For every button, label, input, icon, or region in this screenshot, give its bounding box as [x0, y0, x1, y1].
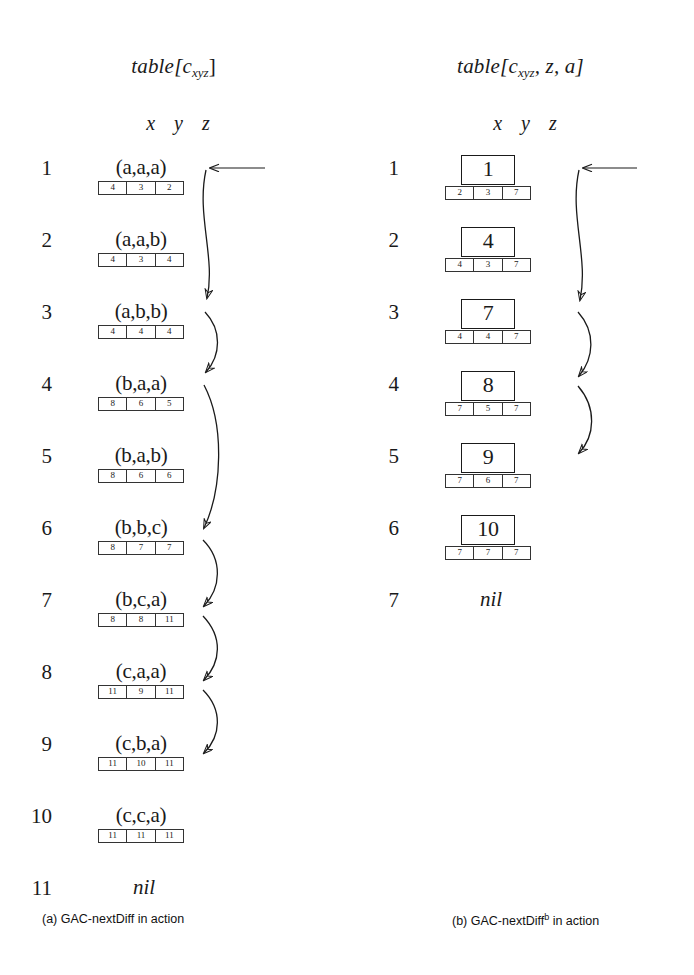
- counter-strip: 767: [445, 474, 531, 488]
- row-tuple: (b,a,b): [66, 443, 216, 468]
- counter-cell: 7: [446, 403, 474, 415]
- counter-cell: 8: [99, 614, 127, 626]
- row-index: 2: [10, 227, 52, 254]
- row-nil-marker: nil: [66, 875, 216, 900]
- counter-cell: 3: [474, 187, 502, 199]
- row-body: nil: [413, 587, 563, 612]
- counter-strip: 8811: [98, 613, 184, 627]
- counter-strip: 444: [98, 325, 184, 339]
- table-row: 2(a,a,b)434: [0, 227, 347, 299]
- panel-right: table[cxyz, z, a] x y z 1123724437374474…: [347, 0, 694, 975]
- row-index: 6: [357, 515, 399, 542]
- counter-strip: 237: [445, 186, 531, 200]
- caption-right-tail: in action: [553, 914, 600, 928]
- row-value-box: 8: [461, 371, 515, 401]
- counter-cell: 8: [127, 614, 155, 626]
- table-row: 610777: [347, 515, 694, 587]
- row-body: (a,a,b)434: [66, 227, 216, 267]
- row-index: 10: [10, 803, 52, 830]
- row-value-box: 1: [461, 155, 515, 185]
- caption-right-superscript: b: [544, 912, 549, 922]
- counter-strip: 866: [98, 469, 184, 483]
- counter-cell: 7: [156, 542, 183, 554]
- row-index: 7: [10, 587, 52, 614]
- counter-cell: 8: [99, 470, 127, 482]
- counter-cell: 7: [127, 542, 155, 554]
- row-body: 7447: [413, 299, 563, 344]
- row-nil-marker: nil: [413, 587, 563, 612]
- counter-cell: 4: [156, 326, 183, 338]
- caption-right-name: GAC-nextDiff: [471, 914, 544, 928]
- row-body: (b,c,a)8811: [66, 587, 216, 627]
- row-index: 3: [357, 299, 399, 326]
- counter-cell: 5: [474, 403, 502, 415]
- row-index: 1: [357, 155, 399, 182]
- counter-cell: 4: [156, 254, 183, 266]
- row-body: (a,b,b)444: [66, 299, 216, 339]
- counter-strip: 757: [445, 402, 531, 416]
- row-body: 4437: [413, 227, 563, 272]
- table-row: 11nil: [0, 875, 347, 947]
- table-title-left: table[cxyz]: [0, 54, 347, 81]
- counter-cell: 4: [446, 331, 474, 343]
- counter-cell: 6: [156, 470, 183, 482]
- counter-strip: 111111: [98, 829, 184, 843]
- row-value-box: 4: [461, 227, 515, 257]
- row-body: 1237: [413, 155, 563, 200]
- row-index: 5: [357, 443, 399, 470]
- row-body: (c,b,a)111011: [66, 731, 216, 771]
- caption-left: (a) GAC-nextDiff in action: [42, 912, 184, 926]
- row-index: 9: [10, 731, 52, 758]
- column-header-right: x y z: [347, 112, 694, 135]
- row-index: 8: [10, 659, 52, 686]
- counter-cell: 6: [127, 398, 155, 410]
- row-body: (c,a,a)11911: [66, 659, 216, 699]
- rows-right: 11237244373744748757597676107777nil: [347, 155, 694, 659]
- row-index: 4: [10, 371, 52, 398]
- figure-gac-nextdiff: table[cxyz] x y z 1(a,a,a)4322(a,a,b)434…: [0, 0, 694, 975]
- caption-right: (b) GAC-nextDiffb in action: [452, 912, 599, 928]
- caption-left-tail: in action: [138, 912, 185, 926]
- row-tuple: (c,a,a): [66, 659, 216, 684]
- table-title-left-prefix: table[c: [131, 54, 192, 78]
- counter-strip: 865: [98, 397, 184, 411]
- table-row: 5(b,a,b)866: [0, 443, 347, 515]
- table-title-right: table[cxyz, z, a]: [347, 54, 694, 81]
- counter-cell: 11: [99, 758, 127, 770]
- table-row: 8(c,a,a)11911: [0, 659, 347, 731]
- counter-cell: 11: [156, 614, 183, 626]
- rows-left: 1(a,a,a)4322(a,a,b)4343(a,b,b)4444(b,a,a…: [0, 155, 347, 947]
- counter-cell: 3: [127, 254, 155, 266]
- row-value-box: 10: [461, 515, 515, 545]
- table-row: 11237: [347, 155, 694, 227]
- counter-cell: 11: [156, 830, 183, 842]
- row-index: 2: [357, 227, 399, 254]
- row-body: 9767: [413, 443, 563, 488]
- row-tuple: (b,c,a): [66, 587, 216, 612]
- table-row: 37447: [347, 299, 694, 371]
- row-index: 6: [10, 515, 52, 542]
- row-tuple: (a,a,b): [66, 227, 216, 252]
- counter-strip: 111011: [98, 757, 184, 771]
- counter-cell: 11: [156, 758, 183, 770]
- row-index: 1: [10, 155, 52, 182]
- counter-cell: 3: [474, 259, 502, 271]
- table-title-right-suffix: , z, a]: [535, 54, 584, 78]
- row-value-box: 7: [461, 299, 515, 329]
- row-body: 10777: [413, 515, 563, 560]
- table-title-right-prefix: table[c: [457, 54, 518, 78]
- table-row: 10(c,c,a)111111: [0, 803, 347, 875]
- counter-strip: 434: [98, 253, 184, 267]
- counter-cell: 8: [99, 398, 127, 410]
- row-index: 11: [10, 875, 52, 902]
- counter-cell: 6: [474, 475, 502, 487]
- row-tuple: (a,a,a): [66, 155, 216, 180]
- counter-cell: 7: [446, 547, 474, 559]
- counter-cell: 11: [156, 686, 183, 698]
- counter-cell: 7: [503, 403, 530, 415]
- row-index: 7: [357, 587, 399, 614]
- counter-cell: 10: [127, 758, 155, 770]
- row-index: 5: [10, 443, 52, 470]
- counter-cell: 2: [156, 182, 183, 194]
- row-tuple: (c,c,a): [66, 803, 216, 828]
